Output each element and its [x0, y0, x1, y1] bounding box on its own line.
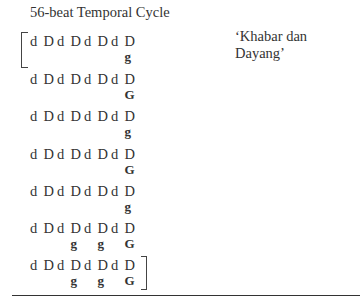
gong-stroke: [30, 236, 44, 252]
beat: d: [57, 220, 71, 237]
cycle-title: 56-beat Temporal Cycle: [30, 4, 170, 21]
gong-stroke: [84, 87, 98, 103]
gong-stroke: [30, 49, 44, 65]
gong-stroke: [84, 273, 98, 289]
gong-stroke: [30, 199, 44, 215]
gong-stroke: [84, 236, 98, 252]
beat: d: [30, 71, 44, 88]
gong-stroke: [71, 49, 85, 65]
beat: D: [71, 108, 85, 125]
beat: D: [125, 220, 139, 237]
gong-stroke: [98, 199, 112, 215]
beat: D: [44, 33, 58, 50]
beat: D: [44, 108, 58, 125]
gong-stroke: [98, 124, 112, 140]
beat: D: [71, 146, 85, 163]
cycle-row: dDdDdDdD ggG: [30, 220, 140, 254]
beat: D: [125, 71, 139, 88]
gong-stroke: [111, 236, 125, 252]
beat: D: [98, 183, 112, 200]
gong-stroke: [98, 49, 112, 65]
beat: d: [84, 183, 98, 200]
gong-stroke: [57, 87, 71, 103]
beat: d: [30, 33, 44, 50]
gong-stroke: [84, 162, 98, 178]
gong-stroke: [44, 199, 58, 215]
beat: D: [125, 183, 139, 200]
beat: d: [111, 146, 125, 163]
gong-stroke: g: [71, 236, 85, 252]
gong-stroke: g: [125, 124, 139, 140]
gong-stroke: G: [125, 236, 139, 252]
beat: d: [30, 108, 44, 125]
gong-stroke: [84, 49, 98, 65]
gong-stroke: [84, 199, 98, 215]
beat-line: dDdDdDdD: [30, 108, 140, 125]
beat: d: [111, 220, 125, 237]
beat: d: [111, 257, 125, 274]
beat: D: [71, 183, 85, 200]
gong-stroke: [111, 87, 125, 103]
bottom-rule: [12, 295, 360, 296]
beat: D: [125, 146, 139, 163]
gong-stroke: [57, 49, 71, 65]
beat: d: [57, 257, 71, 274]
beat: D: [98, 71, 112, 88]
gong-stroke: [71, 199, 85, 215]
gong-line: g: [30, 124, 140, 140]
cycle-row: dDdDdDdD g: [30, 108, 140, 142]
gong-line: ggG: [30, 273, 140, 289]
beat: d: [111, 71, 125, 88]
beat: d: [111, 183, 125, 200]
beat: d: [84, 108, 98, 125]
beat: D: [98, 33, 112, 50]
beat: d: [30, 220, 44, 237]
cycle-row: dDdDdDdD G: [30, 146, 140, 180]
beat: d: [57, 183, 71, 200]
beat: D: [44, 220, 58, 237]
beat: d: [57, 108, 71, 125]
beat: D: [125, 33, 139, 50]
beat: d: [84, 71, 98, 88]
beat-line: dDdDdDdD: [30, 71, 140, 88]
beat: D: [71, 257, 85, 274]
beat: D: [71, 33, 85, 50]
gong-stroke: g: [125, 49, 139, 65]
beat: D: [44, 71, 58, 88]
beat: d: [111, 108, 125, 125]
gong-stroke: [44, 273, 58, 289]
gong-stroke: [57, 162, 71, 178]
beat-line: dDdDdDdD: [30, 220, 140, 237]
gong-stroke: [111, 49, 125, 65]
gong-stroke: [44, 162, 58, 178]
gong-stroke: [30, 124, 44, 140]
gong-stroke: [44, 87, 58, 103]
beat: d: [111, 33, 125, 50]
gong-stroke: [111, 273, 125, 289]
gong-stroke: g: [71, 273, 85, 289]
gong-stroke: [57, 199, 71, 215]
gong-stroke: G: [125, 162, 139, 178]
beat: d: [84, 220, 98, 237]
beat: D: [44, 146, 58, 163]
gong-stroke: g: [98, 236, 112, 252]
open-bracket: [21, 32, 28, 68]
beat-line: dDdDdDdD: [30, 146, 140, 163]
gong-stroke: [71, 162, 85, 178]
beat: D: [44, 257, 58, 274]
close-bracket: [141, 256, 147, 290]
gong-line: g: [30, 199, 140, 215]
gong-stroke: [111, 124, 125, 140]
gong-stroke: G: [125, 87, 139, 103]
cycle-row: dDdDdDdD g: [30, 33, 140, 67]
beat: D: [125, 257, 139, 274]
beat: d: [30, 183, 44, 200]
beat: D: [98, 146, 112, 163]
beat: d: [57, 33, 71, 50]
cycle-row: dDdDdDdD G: [30, 71, 140, 105]
gong-line: ggG: [30, 236, 140, 252]
gong-stroke: [44, 236, 58, 252]
beat: d: [30, 257, 44, 274]
gong-stroke: [44, 124, 58, 140]
gong-stroke: [30, 87, 44, 103]
